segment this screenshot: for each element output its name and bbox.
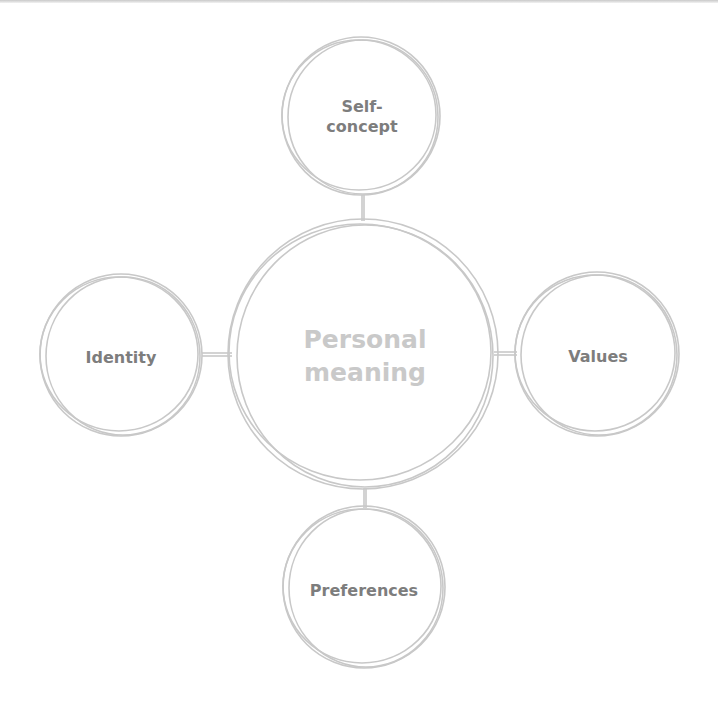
preferences-label-text: Preferences [310, 581, 418, 601]
center-node-label: Personal meaning [304, 324, 427, 389]
connector-top [362, 195, 364, 221]
identity-label-text: Identity [86, 348, 157, 368]
center-label-line2: meaning [304, 356, 427, 389]
self-concept-label-line1: Self- [326, 97, 397, 117]
self-concept-label: Self- concept [326, 97, 397, 137]
values-label-text: Values [568, 347, 628, 367]
values-label: Values [568, 347, 628, 367]
preferences-label: Preferences [310, 581, 418, 601]
center-label-line1: Personal [304, 324, 427, 357]
identity-label: Identity [86, 348, 157, 368]
self-concept-label-line2: concept [326, 117, 397, 137]
connector-bottom [364, 488, 366, 508]
